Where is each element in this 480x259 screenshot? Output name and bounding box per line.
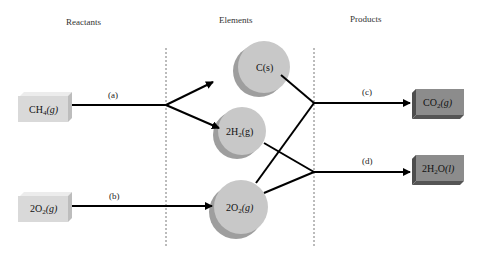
element-circle-oxygen: 2O2(g) [209, 180, 268, 239]
product-box-h2o: 2H2O(l) [412, 155, 464, 185]
pathway-d: (d) [264, 143, 410, 193]
svg-text:C(s): C(s) [256, 62, 273, 74]
product-box-co2: CO2(g) [412, 89, 464, 119]
svg-text:(c): (c) [362, 87, 372, 97]
reaction-pathway-diagram: CH4(g) 2O2(g) C(s) 2H2(g) 2O2(g) (a) (b) [0, 0, 480, 259]
pathway-b: (b) [72, 191, 212, 206]
reactant-box-ch4: CH4(g) [18, 92, 72, 122]
pathway-c: (c) [256, 75, 410, 183]
pathway-a: (a) [72, 82, 219, 128]
reactant-box-o2: 2O2(g) [18, 192, 72, 222]
element-circle-carbon: C(s) [233, 41, 290, 97]
svg-text:(b): (b) [109, 191, 120, 201]
svg-text:(d): (d) [362, 156, 373, 166]
element-circle-hydrogen: 2H2(g) [213, 107, 266, 159]
svg-text:(a): (a) [108, 90, 118, 100]
